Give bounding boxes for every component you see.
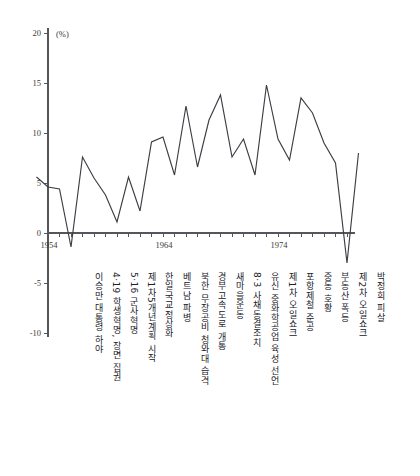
y-tick-label: 10 <box>33 128 42 138</box>
event-label: 베트남 파병 <box>181 272 191 322</box>
event-label: 제1차5개년계획 시작 <box>146 272 156 363</box>
x-tick-label: 1964 <box>156 240 174 250</box>
economic-growth-line-chart: 20151050-5-10 195419641974 (%) 이승만 대통령 하… <box>0 0 420 476</box>
event-label: 8·3 사채동결조치 <box>252 272 262 348</box>
event-label: 경부고속도로 개통 <box>217 271 227 350</box>
y-tick-label: 20 <box>33 28 42 38</box>
event-label: 이승만 대통령 하야 <box>93 272 103 354</box>
event-label: 제2차 오일쇼크 <box>357 272 367 338</box>
event-label: 5·16 군사혁명 <box>129 272 139 335</box>
chart-container: 20151050-5-10 195419641974 (%) 이승만 대통령 하… <box>0 0 420 476</box>
x-tick-label: 1954 <box>41 240 59 250</box>
event-label: 한일국교정상화 <box>164 272 174 338</box>
event-label: 부동산 폭등 <box>340 272 350 322</box>
event-label: 새마을운동 <box>234 272 244 319</box>
event-label: 북한 무장공비 청와대 습격 <box>199 272 209 386</box>
y-axis-unit-label: (%) <box>56 29 69 39</box>
event-label: 4·19 학생혁명, 장면 집권 <box>111 272 121 382</box>
y-tick-label: -5 <box>34 278 41 288</box>
event-label: 중동 호황 <box>322 272 332 313</box>
event-label: 포항제철 준공 <box>305 272 315 332</box>
event-label: 제1차 오일쇼크 <box>287 272 297 338</box>
y-tick-label: 0 <box>37 228 41 238</box>
y-tick-label: 15 <box>33 78 42 88</box>
x-tick-label: 1974 <box>271 240 289 250</box>
event-label: 박정희 피살 <box>375 272 385 322</box>
y-axis-unit: (%) <box>56 29 69 39</box>
event-label: 유신 중화학공업 육성 선언 <box>269 272 279 385</box>
y-tick-label: -10 <box>30 328 41 338</box>
chart-background <box>0 0 420 476</box>
